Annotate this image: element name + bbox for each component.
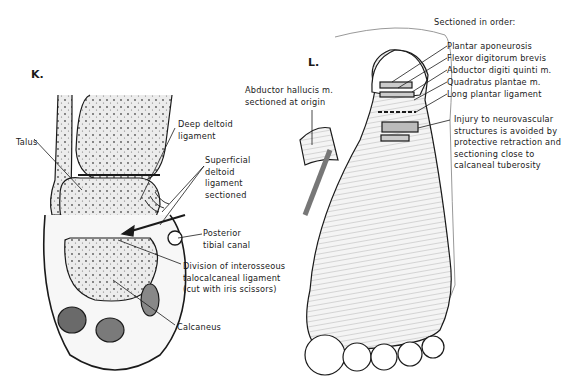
panel-l-letter: L.	[308, 56, 319, 69]
label-calcaneus: Calcaneus	[177, 322, 221, 334]
label-abductor-hallucis: Abductor hallucis m. sectioned at origin	[245, 85, 333, 108]
sectioned-item: Flexor digitorum brevis	[447, 53, 546, 65]
panel-l-drawing	[300, 28, 455, 375]
label-talus: Talus	[16, 137, 37, 149]
label-division-interosseous-ligament: Division of interosseous talocalcaneal l…	[183, 261, 285, 296]
sectioned-item: Quadratus plantae m.	[447, 77, 541, 89]
label-posterior-tibial-canal: Posterior tibial canal	[203, 228, 250, 251]
label-deep-deltoid-ligament: Deep deltoid ligament	[178, 119, 233, 142]
panel-k-letter: K.	[31, 68, 44, 81]
label-sectioned-in-order: Sectioned in order:	[434, 17, 516, 29]
label-injury-note: Injury to neurovascular structures is av…	[454, 114, 561, 172]
sectioned-item: Plantar aponeurosis	[447, 41, 532, 53]
label-superficial-deltoid-ligament: Superficial deltoid ligament sectioned	[205, 155, 250, 201]
sectioned-item: Abductor digiti quinti m.	[447, 65, 551, 77]
sectioned-item: Long plantar ligament	[447, 89, 542, 101]
